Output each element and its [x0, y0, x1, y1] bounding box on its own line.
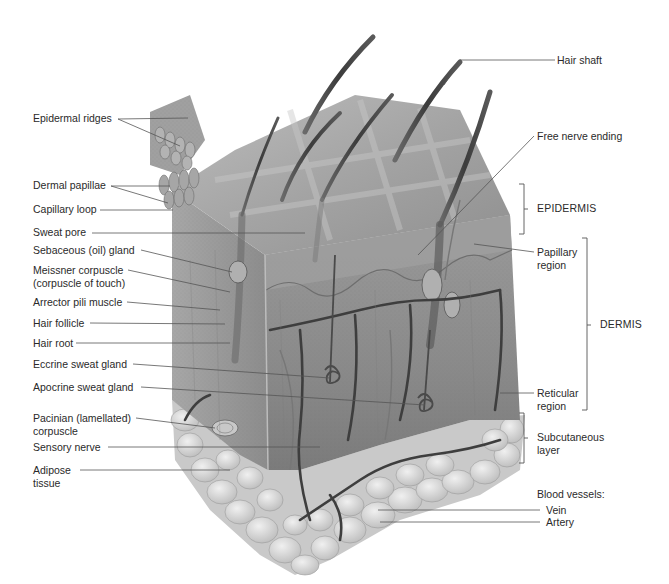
label-subcutaneous-layer-line2: layer: [537, 444, 560, 457]
label-meissner-corpuscle: Meissner corpuscle: [33, 264, 123, 277]
label-adipose-tissue: Adipose: [33, 464, 71, 477]
epidermal-ridges-block: [150, 95, 205, 175]
label-eccrine-sweat-gland: Eccrine sweat gland: [33, 358, 127, 371]
label-meissner-corpuscle-line2: (corpuscle of touch): [33, 277, 125, 290]
label-pacinian-corpuscle: Pacinian (lamellated): [33, 412, 131, 425]
brackets: [519, 184, 591, 463]
label-hair-follicle: Hair follicle: [33, 317, 84, 330]
label-dermis: DERMIS: [600, 318, 642, 331]
label-hair-shaft: Hair shaft: [557, 54, 602, 67]
label-free-nerve-ending: Free nerve ending: [537, 130, 622, 143]
label-sensory-nerve: Sensory nerve: [33, 441, 101, 454]
label-hair-root: Hair root: [33, 337, 73, 350]
pacinian-corpuscle: [212, 420, 238, 436]
label-dermal-papillae: Dermal papillae: [33, 179, 106, 192]
label-capillary-loop: Capillary loop: [33, 203, 97, 216]
label-arrector-pili-muscle: Arrector pili muscle: [33, 296, 122, 309]
label-artery: Artery: [546, 516, 574, 529]
label-reticular-region: Reticular: [537, 387, 578, 400]
label-blood-vessels-heading: Blood vessels:: [537, 488, 605, 501]
label-apocrine-sweat-gland: Apocrine sweat gland: [33, 381, 133, 394]
label-pacinian-corpuscle-line2: corpuscle: [33, 425, 78, 438]
label-reticular-region-line2: region: [537, 400, 566, 413]
label-epidermal-ridges: Epidermal ridges: [33, 112, 112, 125]
label-epidermis: EPIDERMIS: [537, 202, 597, 215]
label-adipose-tissue-line2: tissue: [33, 477, 60, 490]
label-papillary-region: Papillary: [537, 246, 577, 259]
label-sebaceous-gland: Sebaceous (oil) gland: [33, 244, 135, 257]
label-papillary-region-line2: region: [537, 259, 566, 272]
label-sweat-pore: Sweat pore: [33, 226, 86, 239]
label-subcutaneous-layer: Subcutaneous: [537, 431, 604, 444]
